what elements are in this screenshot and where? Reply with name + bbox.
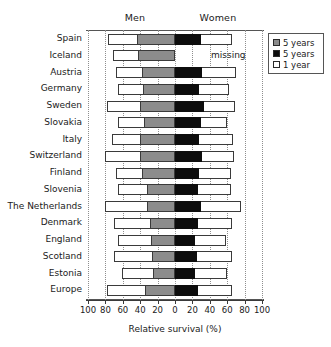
axis-title: Relative survival (%) — [88, 324, 262, 334]
bar-segment-men-5-years — [151, 235, 175, 246]
category-label: Italy — [62, 134, 82, 144]
bar-segment-men-5-years — [150, 218, 175, 229]
category-label: Scotland — [43, 251, 82, 261]
bar-segment-women-5-years — [175, 168, 199, 179]
axis-tick — [192, 300, 193, 304]
axis-tick — [158, 300, 159, 304]
category-label: Spain — [57, 33, 82, 43]
axis-tick — [227, 300, 228, 304]
bar-segment-women-5-years — [175, 101, 204, 112]
bar-segment-women-5-years — [175, 67, 202, 78]
axis-tick — [262, 300, 263, 304]
bar-row: Spain — [88, 31, 262, 48]
bar-segment-men-5-years — [152, 251, 175, 262]
bar-segment-women-5-years — [175, 34, 201, 45]
axis-tick — [123, 300, 124, 304]
bar-segment-women-5-years — [175, 218, 198, 229]
bar-segment-men-5-years — [147, 184, 175, 195]
bar-row: Austria — [88, 65, 262, 82]
plot-area: SpainIcelandmissingAustriaGermanySwedenS… — [88, 30, 262, 300]
chart-legend: 5 years 5 years 1 year — [268, 33, 324, 74]
bar-segment-men-5-years — [140, 134, 175, 145]
legend-item-1-year: 1 year — [273, 59, 320, 70]
legend-label-men-5-years: 5 years — [283, 38, 315, 48]
bar-segment-men-5-years — [140, 151, 175, 162]
bar-segment-women-5-years — [175, 285, 198, 296]
panel-header-women: Women — [188, 12, 248, 23]
bar-segment-women-5-years — [175, 268, 195, 279]
category-label: Denmark — [41, 217, 82, 227]
axis-tick — [210, 300, 211, 304]
bar-row: Europe — [88, 282, 262, 299]
axis-tick — [175, 300, 176, 304]
category-label: Switzerland — [30, 150, 83, 160]
legend-label-women-5-years: 5 years — [283, 49, 315, 59]
panel-headers: Men Women — [88, 12, 262, 28]
gridline — [262, 30, 263, 300]
bar-segment-men-5-years — [153, 268, 175, 279]
legend-item-men-5-years: 5 years — [273, 37, 320, 48]
category-label: Slovenia — [44, 184, 82, 194]
bar-row: Denmark — [88, 215, 262, 232]
bar-row: Estonia — [88, 266, 262, 283]
category-label: The Netherlands — [8, 201, 82, 211]
bar-row: Icelandmissing — [88, 48, 262, 65]
bar-row: The Netherlands — [88, 199, 262, 216]
bar-row: Finland — [88, 165, 262, 182]
bar-segment-women-5-years — [175, 117, 201, 128]
category-label: Sweden — [46, 100, 82, 110]
bar-segment-men-5-years — [145, 285, 175, 296]
x-axis: 10080604020020406080100 — [88, 300, 262, 308]
axis-tick — [105, 300, 106, 304]
legend-label-1-year: 1 year — [283, 60, 310, 70]
axis-tick-label: 100 — [249, 305, 275, 315]
category-label: Slovakia — [44, 117, 82, 127]
bar-row: England — [88, 232, 262, 249]
category-label: Estonia — [49, 268, 82, 278]
bar-segment-men-5-years — [137, 34, 175, 45]
category-label: Germany — [41, 83, 82, 93]
bar-segment-men-5-years — [142, 67, 175, 78]
axis-tick — [245, 300, 246, 304]
missing-data-note: missing — [211, 50, 246, 60]
legend-item-women-5-years: 5 years — [273, 48, 320, 59]
legend-swatch-gray-icon — [273, 39, 280, 46]
axis-tick — [140, 300, 141, 304]
category-label: Finland — [50, 167, 82, 177]
category-label: Europe — [50, 284, 82, 294]
bar-row: Switzerland — [88, 148, 262, 165]
bar-row: Italy — [88, 132, 262, 149]
bar-segment-men-5-years — [138, 50, 175, 61]
legend-swatch-white-icon — [273, 61, 280, 68]
category-label: England — [45, 234, 82, 244]
bar-segment-women-5-years — [175, 151, 202, 162]
axis-tick — [88, 300, 89, 304]
bar-segment-men-5-years — [140, 101, 175, 112]
bar-segment-men-5-years — [144, 117, 175, 128]
bar-row: Slovenia — [88, 182, 262, 199]
panel-header-men: Men — [105, 12, 165, 23]
bar-segment-men-5-years — [143, 84, 175, 95]
legend-swatch-black-icon — [273, 50, 280, 57]
bar-segment-men-5-years — [142, 168, 175, 179]
bar-segment-women-5-years — [175, 251, 197, 262]
category-label: Austria — [50, 67, 82, 77]
bar-row: Scotland — [88, 249, 262, 266]
bar-segment-women-5-years — [175, 134, 199, 145]
bar-row: Germany — [88, 81, 262, 98]
bar-segment-men-5-years — [147, 201, 175, 212]
bar-segment-women-5-years — [175, 201, 201, 212]
category-label: Iceland — [49, 50, 82, 60]
bar-segment-women-5-years — [175, 235, 195, 246]
bar-row: Sweden — [88, 98, 262, 115]
relative-survival-chart: Men Women SpainIcelandmissingAustriaGerm… — [0, 0, 331, 347]
bar-segment-women-5-years — [175, 184, 198, 195]
bar-segment-women-5-years — [175, 84, 199, 95]
bar-row: Slovakia — [88, 115, 262, 132]
